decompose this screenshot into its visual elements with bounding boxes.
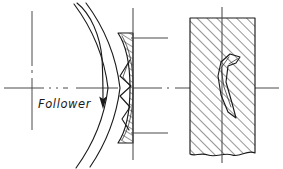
follower-motion-arrow <box>77 3 107 109</box>
engineering-drawing-canvas: Follower <box>0 0 283 169</box>
technical-drawing-svg: Follower <box>0 0 283 169</box>
block-hatched-section <box>188 7 258 163</box>
follower-label: Follower <box>38 97 92 111</box>
